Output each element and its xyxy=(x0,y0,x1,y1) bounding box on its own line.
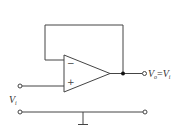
output-terminal xyxy=(143,72,147,76)
junction-dot xyxy=(121,72,125,76)
common-terminal-right xyxy=(143,110,147,114)
plus-sign: + xyxy=(67,77,75,87)
input-terminal xyxy=(18,84,22,88)
common-terminal-left xyxy=(18,110,22,114)
output-label: Vo=Vi xyxy=(148,68,171,80)
input-label: Vi xyxy=(9,94,17,106)
minus-sign: − xyxy=(67,58,75,68)
voltage-follower-circuit: − + Vo=Vi Vi xyxy=(0,0,178,136)
